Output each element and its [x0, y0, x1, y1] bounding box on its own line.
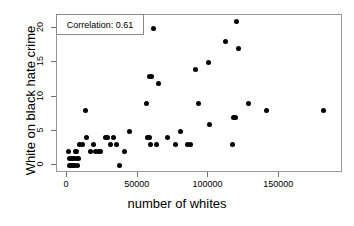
x-axis-tick-label: 50000	[124, 179, 149, 189]
y-axis-tick	[51, 164, 56, 165]
data-point	[223, 39, 228, 44]
data-point	[108, 142, 113, 147]
data-point	[66, 149, 71, 154]
data-point	[264, 108, 269, 113]
data-point	[165, 135, 170, 140]
data-point	[91, 142, 96, 147]
data-point	[178, 129, 183, 134]
x-axis-tick	[278, 172, 279, 177]
data-point	[74, 149, 79, 154]
data-point	[75, 163, 80, 168]
data-point	[154, 142, 159, 147]
data-point	[127, 129, 132, 134]
y-axis-title: White on black hate crime	[23, 16, 38, 186]
data-point	[246, 101, 251, 106]
data-point	[111, 135, 116, 140]
data-point	[147, 135, 152, 140]
y-axis-tick	[51, 130, 56, 131]
data-point	[148, 142, 153, 147]
data-point	[234, 19, 239, 24]
data-point	[321, 108, 326, 113]
scatter-plot-figure: 05000010000015000005101520 Correlation: …	[0, 0, 354, 226]
data-point	[98, 149, 103, 154]
data-point	[149, 74, 154, 79]
data-point	[114, 142, 119, 147]
correlation-legend-box: Correlation: 0.61	[56, 14, 144, 35]
data-point	[206, 60, 211, 65]
correlation-label: Correlation: 0.61	[67, 20, 134, 30]
data-point	[151, 26, 156, 31]
data-point	[117, 163, 122, 168]
data-point	[207, 122, 212, 127]
x-axis-tick	[137, 172, 138, 177]
data-point	[188, 142, 193, 147]
plot-area	[56, 14, 342, 172]
data-point	[156, 81, 161, 86]
data-point	[122, 149, 127, 154]
y-axis-tick	[51, 61, 56, 62]
x-axis-tick	[66, 172, 67, 177]
data-point	[233, 115, 238, 120]
data-points-layer	[57, 15, 341, 171]
data-point	[105, 135, 110, 140]
data-point	[236, 46, 241, 51]
x-axis-title: number of whites	[0, 196, 354, 211]
data-point	[144, 101, 149, 106]
x-axis-tick-label: 150000	[263, 179, 293, 189]
data-point	[83, 108, 88, 113]
data-point	[84, 135, 89, 140]
x-axis-tick-label: 0	[63, 179, 68, 189]
x-axis-tick	[207, 172, 208, 177]
data-point	[230, 142, 235, 147]
data-point	[173, 142, 178, 147]
data-point	[196, 101, 201, 106]
data-point	[80, 142, 85, 147]
y-axis-tick	[51, 96, 56, 97]
x-axis-tick-label: 100000	[192, 179, 222, 189]
data-point	[76, 156, 81, 161]
data-point	[193, 67, 198, 72]
